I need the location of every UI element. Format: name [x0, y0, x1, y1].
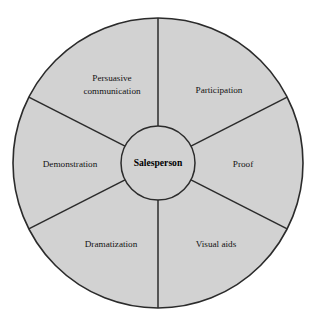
sector-label-persuasive-communication-line1: Persuasive [92, 73, 131, 83]
sector-label-demonstration: Demonstration [43, 159, 98, 169]
sector-label-proof: Proof [233, 159, 254, 169]
sector-label-visual-aids: Visual aids [196, 239, 237, 249]
wheel-diagram: Salesperson Persuasive communication Par… [0, 0, 320, 323]
sector-label-persuasive-communication-line2: communication [83, 86, 141, 96]
hub-label: Salesperson [134, 157, 183, 168]
sector-label-participation: Participation [196, 85, 243, 95]
sector-label-dramatization: Dramatization [85, 239, 138, 249]
wheel-diagram-canvas: Salesperson Persuasive communication Par… [0, 0, 320, 323]
